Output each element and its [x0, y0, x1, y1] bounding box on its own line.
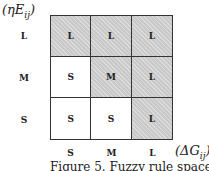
row-label-m: M — [14, 73, 34, 83]
col-label-s: S — [50, 148, 91, 158]
cell-s-m: S — [91, 98, 131, 139]
col-label-l: L — [132, 148, 173, 158]
cell-s-s: S — [51, 98, 91, 139]
row-label-l: L — [14, 31, 34, 41]
x-axis-label: (ΔGij) — [175, 143, 209, 161]
y-axis-label: (ηEij) — [2, 2, 35, 20]
row-label-s: S — [14, 115, 34, 125]
cell-s-l: L — [132, 98, 172, 139]
cell-l-s: L — [51, 16, 91, 57]
cell-l-l: L — [132, 16, 172, 57]
cell-m-m: M — [91, 57, 131, 98]
col-label-m: M — [91, 148, 132, 158]
cell-l-m: L — [91, 16, 131, 57]
cell-m-s: S — [51, 57, 91, 98]
figure-caption: Figure 5. Fuzzy rule space — [50, 160, 209, 171]
fuzzy-rule-grid: L L L S M L S S L — [50, 15, 173, 140]
y-axis-label-text: ηEij — [7, 2, 30, 17]
cell-m-l: L — [132, 57, 172, 98]
